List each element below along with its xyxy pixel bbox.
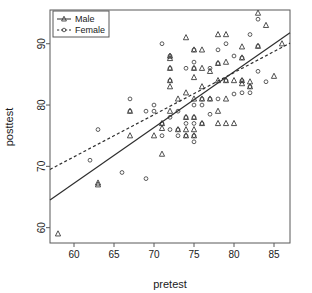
x-tick-label: 65 (108, 249, 120, 260)
y-tick-label: 70 (37, 160, 48, 172)
y-tick-label: 90 (37, 38, 48, 50)
x-tick-label: 80 (228, 249, 240, 260)
y-tick-label: 60 (37, 222, 48, 234)
scatter-plot: 606570758085 60708090 MaleFemale pretest… (0, 0, 312, 293)
chart-container: 606570758085 60708090 MaleFemale pretest… (0, 0, 312, 293)
y-tick-label: 80 (37, 99, 48, 111)
x-tick-label: 70 (148, 249, 160, 260)
x-tick-label: 60 (68, 249, 80, 260)
x-axis-label: pretest (153, 278, 187, 290)
legend-label-male: Male (75, 14, 95, 24)
legend: MaleFemale (53, 11, 109, 37)
legend-label-female: Female (75, 25, 105, 35)
x-tick-label: 75 (188, 249, 200, 260)
y-axis-label: posttest (3, 108, 15, 147)
x-tick-label: 85 (268, 249, 280, 260)
